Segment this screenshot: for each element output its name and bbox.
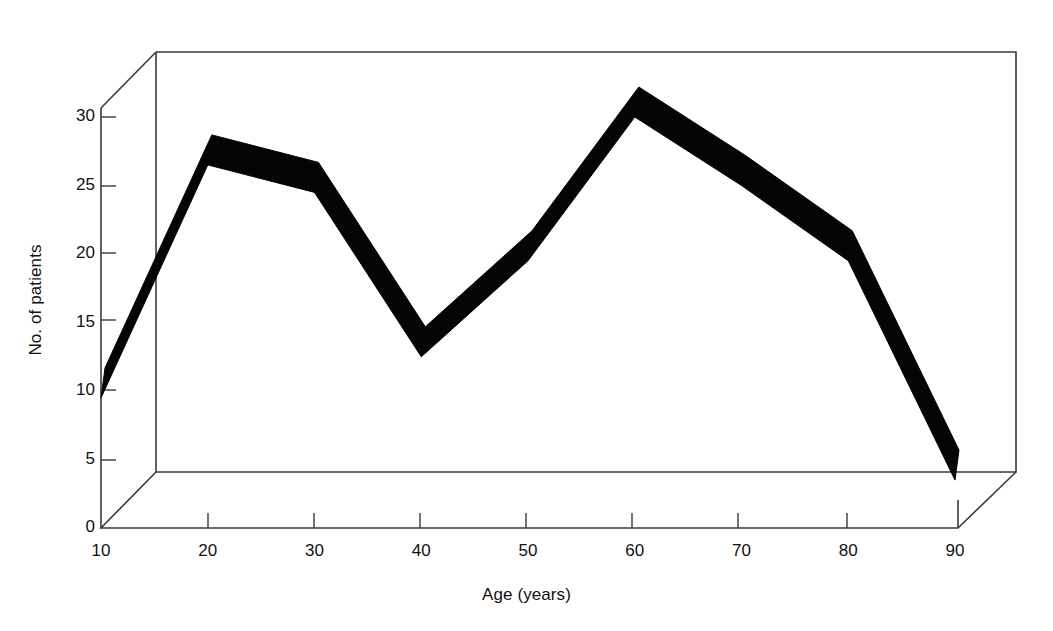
y-tick-label: 30 — [55, 106, 95, 126]
x-tick-label: 30 — [292, 541, 338, 561]
y-axis-title: No. of patients — [26, 180, 46, 420]
y-tick-label: 15 — [55, 312, 95, 332]
x-tick-label: 90 — [932, 541, 978, 561]
y-tick-label: 20 — [55, 243, 95, 263]
x-tick-label: 10 — [78, 541, 124, 561]
y-tick-label: 5 — [55, 449, 95, 469]
x-tick-label: 20 — [185, 541, 231, 561]
x-tick-label: 50 — [505, 541, 551, 561]
x-tick-label: 40 — [398, 541, 444, 561]
y-tick-label: 25 — [55, 175, 95, 195]
x-tick-label: 80 — [825, 541, 871, 561]
back-wall-outline — [156, 52, 1016, 472]
x-axis-title: Age (years) — [0, 585, 1053, 605]
data-series-ribbon — [101, 87, 959, 480]
y-tick-label: 10 — [55, 380, 95, 400]
y-tick-label: 0 — [55, 517, 95, 537]
y-axis-tick-marks — [101, 117, 116, 460]
chart-figure: Age (years) No. of patients 102030405060… — [0, 0, 1053, 631]
x-tick-label: 60 — [612, 541, 658, 561]
left-wall-top-depth-edge — [101, 52, 156, 108]
floor-outline — [101, 472, 1016, 528]
x-axis-tick-marks — [208, 513, 847, 528]
x-tick-label: 70 — [719, 541, 765, 561]
chart-plot-area — [0, 0, 1053, 631]
